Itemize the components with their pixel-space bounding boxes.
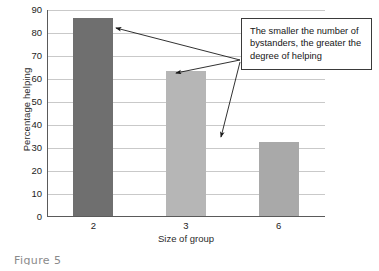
x-axis-tick-labels: 236 — [47, 220, 325, 234]
y-axis-tick: 10 — [18, 189, 42, 199]
y-axis-tick: 20 — [18, 166, 42, 176]
bar — [259, 142, 299, 216]
y-axis-tick: 80 — [18, 28, 42, 38]
y-axis-tick: 70 — [18, 51, 42, 61]
y-axis-tick: 60 — [18, 74, 42, 84]
bar — [166, 71, 206, 216]
annotation-callout: The smaller the number of bystanders, th… — [241, 18, 372, 70]
figure-caption: Figure 5 — [14, 254, 61, 265]
chart-figure: Percentage helping 0102030405060708090 2… — [0, 0, 379, 271]
y-axis-tick: 0 — [18, 212, 42, 222]
y-axis-tick: 50 — [18, 97, 42, 107]
plot-area-container: Percentage helping 0102030405060708090 2… — [0, 0, 379, 246]
y-axis-tick: 30 — [18, 143, 42, 153]
y-axis-tick: 40 — [18, 120, 42, 130]
x-axis-tick: 6 — [276, 220, 281, 231]
x-axis-tick: 3 — [183, 220, 188, 231]
y-axis-tick: 90 — [18, 5, 42, 15]
bar — [73, 18, 113, 216]
y-axis-tick-labels: 0102030405060708090 — [18, 10, 42, 217]
x-axis-title: Size of group — [47, 233, 325, 244]
x-axis-tick: 2 — [91, 220, 96, 231]
